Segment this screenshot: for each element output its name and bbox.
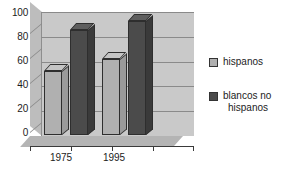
plot-area [30, 12, 194, 146]
bar-face [128, 21, 146, 135]
legend-entry-blancos-no-hispanos: blancos no hispanos [209, 90, 289, 114]
gridline-80 [41, 37, 194, 38]
y-tick-label: 40 [2, 80, 28, 90]
legend-label-blancos: blancos no hispanos [223, 90, 289, 114]
x-tick-mark [30, 146, 31, 151]
legend-label-line2: hispanos [228, 102, 289, 114]
bar-chart: 100 80 60 40 20 0 [0, 0, 292, 181]
legend-label-hispanos: hispanos [223, 56, 289, 68]
x-tick-mark [71, 146, 72, 151]
x-tick-mark [112, 146, 113, 151]
x-tick-mark [193, 146, 194, 151]
bar-hispanos-1975 [44, 71, 62, 135]
bar-side [120, 53, 127, 135]
legend-label-line1: blancos no [223, 90, 271, 101]
legend-entry-hispanos: hispanos [209, 56, 289, 68]
y-tick-label: 60 [2, 56, 28, 66]
y-tick-label: 0 [2, 128, 28, 138]
legend: hispanos blancos no hispanos [209, 56, 289, 136]
x-tick-mark [153, 146, 154, 151]
bar-side [88, 24, 95, 135]
x-tick-label-1975: 1975 [41, 152, 81, 163]
bar-face [70, 30, 88, 135]
gridline-100 [41, 12, 194, 13]
y-axis: 100 80 60 40 20 0 [1, 0, 28, 181]
y-tick-label: 80 [2, 32, 28, 42]
bar-face [102, 59, 120, 135]
y-tick-label: 100 [2, 8, 28, 18]
bar-blancos-1995 [128, 21, 146, 135]
bar-blancos-1975 [70, 30, 88, 135]
legend-swatch-icon [209, 92, 218, 101]
bar-side [62, 65, 69, 135]
y-tick-label: 20 [2, 104, 28, 114]
bar-side [146, 15, 153, 135]
x-tick-label-1995: 1995 [94, 152, 134, 163]
bar-face [44, 71, 62, 135]
bar-hispanos-1995 [102, 59, 120, 135]
legend-swatch-icon [209, 58, 218, 67]
